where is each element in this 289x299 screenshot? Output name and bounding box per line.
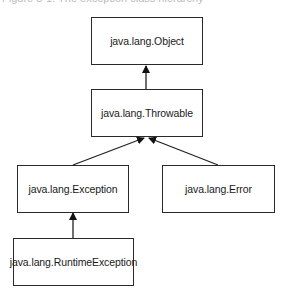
node-label: java.lang.Throwable: [101, 107, 193, 119]
node-label: java.lang.Object: [110, 35, 184, 47]
node-object: java.lang.Object: [91, 17, 203, 65]
edge-error-throwable: [149, 138, 218, 165]
node-label: java.lang.Error: [185, 183, 252, 195]
node-label: java.lang.RuntimeException: [10, 256, 138, 268]
node-throwable: java.lang.Throwable: [91, 89, 203, 137]
edge-exception-throwable: [73, 138, 144, 165]
node-exception: java.lang.Exception: [17, 165, 129, 213]
node-label: java.lang.Exception: [28, 183, 117, 195]
node-runtime-exception: java.lang.RuntimeException: [13, 238, 134, 286]
node-error: java.lang.Error: [162, 165, 275, 213]
